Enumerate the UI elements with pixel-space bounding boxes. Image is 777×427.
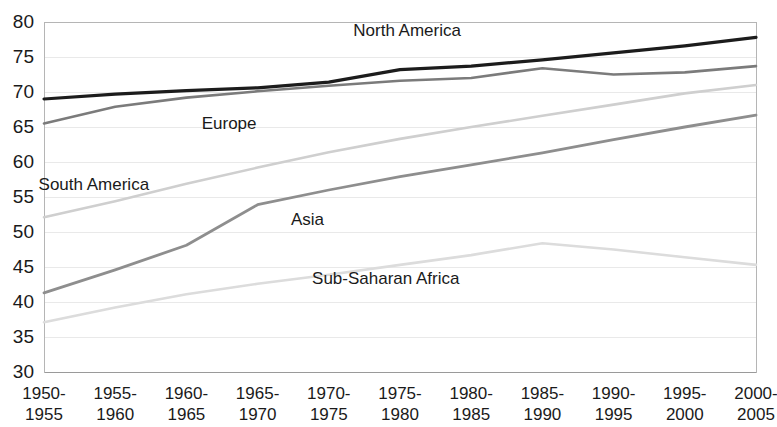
series-inline-labels: North AmericaEuropeSouth AmericaAsiaSub-…	[39, 21, 462, 288]
x-tick-label: 1970	[239, 405, 277, 424]
series-line	[44, 115, 756, 293]
x-tick-label: 1975-	[378, 384, 421, 403]
y-tick-label: 30	[13, 361, 34, 382]
y-axis-tick-labels: 8075706560555045403530	[13, 11, 34, 382]
x-tick-label: 1975	[310, 405, 348, 424]
y-tick-label: 35	[13, 326, 34, 347]
series-label: Europe	[202, 114, 257, 133]
y-tick-label: 60	[13, 151, 34, 172]
x-tick-label: 2005	[737, 405, 775, 424]
series-label: South America	[39, 175, 150, 194]
y-tick-label: 55	[13, 186, 34, 207]
x-tick-label: 1985-	[521, 384, 564, 403]
series-line	[44, 37, 756, 99]
series-label: North America	[353, 21, 461, 40]
x-tick-label: 1960-	[165, 384, 208, 403]
x-tick-label: 1965	[167, 405, 205, 424]
chart-canvas: 8075706560555045403530 1950-19551955-196…	[0, 0, 777, 427]
x-tick-label: 1990	[523, 405, 561, 424]
x-axis-tick-labels: 1950-19551955-19601960-19651965-19701970…	[22, 384, 777, 424]
x-tick-label: 1950-	[22, 384, 65, 403]
x-tick-label: 1995	[595, 405, 633, 424]
series-label: Sub-Saharan Africa	[312, 269, 460, 288]
y-tick-label: 45	[13, 256, 34, 277]
series-line	[44, 66, 756, 123]
x-tick-label: 2000	[666, 405, 704, 424]
x-tick-label: 1965-	[236, 384, 279, 403]
y-tick-label: 40	[13, 291, 34, 312]
x-tick-label: 1960	[96, 405, 134, 424]
x-tick-label: 1980	[381, 405, 419, 424]
x-tick-label: 1980-	[449, 384, 492, 403]
x-tick-label: 1995-	[663, 384, 706, 403]
x-tick-label: 1955-	[93, 384, 136, 403]
x-tick-label: 1985	[452, 405, 490, 424]
x-tick-label: 2000-	[734, 384, 777, 403]
y-tick-label: 75	[13, 46, 34, 67]
y-tick-label: 70	[13, 81, 34, 102]
y-tick-label: 65	[13, 116, 34, 137]
series-label: Asia	[291, 210, 325, 229]
y-tick-label: 80	[13, 11, 34, 32]
line-chart: 8075706560555045403530 1950-19551955-196…	[0, 0, 777, 427]
y-tick-label: 50	[13, 221, 34, 242]
x-tick-label: 1955	[25, 405, 63, 424]
x-tick-label: 1970-	[307, 384, 350, 403]
x-tick-label: 1990-	[592, 384, 635, 403]
